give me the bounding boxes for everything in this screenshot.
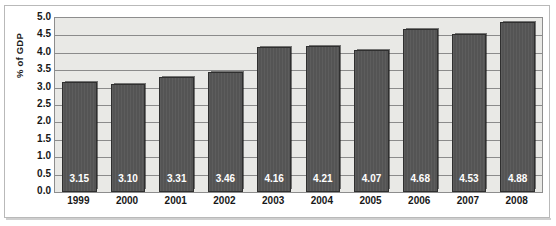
bar-2000[interactable]: 3.10 [111,84,146,192]
bar-value-label-2000: 3.10 [112,174,145,184]
y-tick-3.0: 3.0 [19,82,51,92]
bar-series: 3.153.103.313.464.164.214.074.684.534.88 [55,18,542,192]
bar-2003[interactable]: 4.16 [257,47,292,192]
bar-value-label-2007: 4.53 [453,174,486,184]
bar-slot-2004: 4.21 [299,18,348,192]
bar-slot-2006: 4.68 [396,18,445,192]
x-tick-1999: 1999 [54,196,103,206]
bar-slot-2007: 4.53 [445,18,494,192]
bar-2004[interactable]: 4.21 [306,46,341,193]
bar-2006[interactable]: 4.68 [403,29,438,192]
bar-value-label-2003: 4.16 [258,174,291,184]
bar-chart: % of GDP 5.04.54.03.53.02.52.01.51.00.50… [5,6,551,219]
x-tick-2008: 2008 [492,196,541,206]
bar-2005[interactable]: 4.07 [354,50,389,192]
bar-2002[interactable]: 3.46 [208,72,243,192]
bar-slot-1999: 3.15 [55,18,104,192]
plot-area: 3.153.103.313.464.164.214.074.684.534.88 [54,17,543,193]
bar-slot-2008: 4.88 [493,18,542,192]
bar-value-label-2002: 3.46 [209,174,242,184]
plot-inner: 3.153.103.313.464.164.214.074.684.534.88 [55,18,542,192]
y-tick-5.0: 5.0 [19,12,51,22]
x-tick-2006: 2006 [395,196,444,206]
bar-slot-2001: 3.31 [152,18,201,192]
y-axis-tick-labels: 5.04.54.03.53.02.52.01.51.00.50.0 [19,17,51,191]
bar-2007[interactable]: 4.53 [452,34,487,192]
y-tick-1.0: 1.0 [19,151,51,161]
x-axis-tick-labels: 1999200020012002200320042005200620072008 [54,196,541,214]
bar-value-label-2005: 4.07 [355,174,388,184]
y-tick-2.0: 2.0 [19,116,51,126]
bar-value-label-1999: 3.15 [63,174,96,184]
y-tick-1.5: 1.5 [19,134,51,144]
bar-2001[interactable]: 3.31 [159,77,194,192]
bar-slot-2000: 3.10 [104,18,153,192]
chart-frame: % of GDP 5.04.54.03.53.02.52.01.51.00.50… [4,5,550,218]
x-tick-2005: 2005 [346,196,395,206]
bar-2008[interactable]: 4.88 [500,22,535,192]
bar-value-label-2008: 4.88 [501,174,534,184]
y-tick-4.0: 4.0 [19,47,51,57]
bar-slot-2002: 3.46 [201,18,250,192]
y-tick-2.5: 2.5 [19,99,51,109]
x-tick-2000: 2000 [103,196,152,206]
bar-1999[interactable]: 3.15 [62,82,97,192]
x-tick-2004: 2004 [298,196,347,206]
bar-slot-2005: 4.07 [347,18,396,192]
x-tick-2003: 2003 [249,196,298,206]
x-tick-2002: 2002 [200,196,249,206]
bar-value-label-2001: 3.31 [160,174,193,184]
y-tick-0.0: 0.0 [19,186,51,196]
cutoff-title [0,0,556,4]
x-tick-2001: 2001 [151,196,200,206]
y-tick-0.5: 0.5 [19,169,51,179]
bar-slot-2003: 4.16 [250,18,299,192]
y-tick-3.5: 3.5 [19,64,51,74]
bar-value-label-2004: 4.21 [307,174,340,184]
x-tick-2007: 2007 [444,196,493,206]
bar-value-label-2006: 4.68 [404,174,437,184]
y-tick-4.5: 4.5 [19,29,51,39]
